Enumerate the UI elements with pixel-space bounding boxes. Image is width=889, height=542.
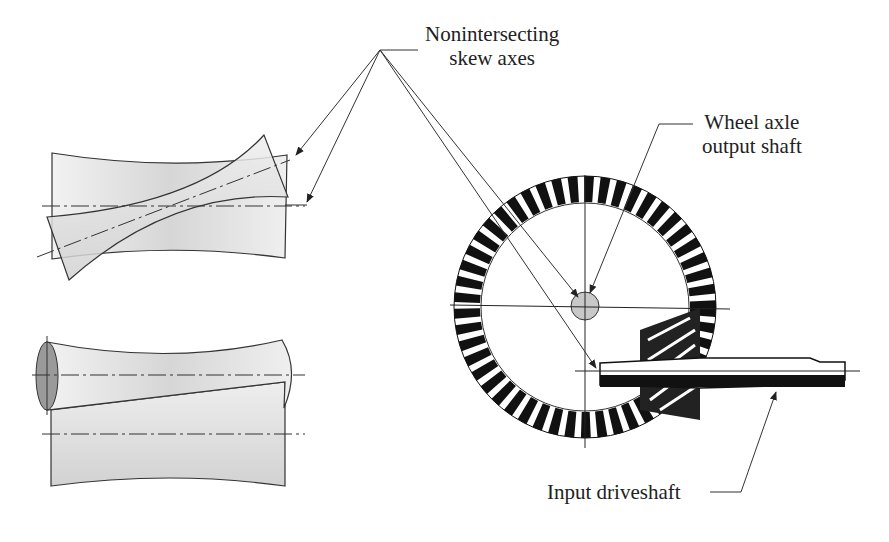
- label-skew-axes-line2: skew axes: [425, 46, 559, 70]
- label-skew-axes: Nonintersecting skew axes: [425, 22, 559, 70]
- pinion-shaft: [575, 358, 860, 388]
- hypoid-gear-diagram: [0, 0, 889, 542]
- label-input-driveshaft: Input driveshaft: [547, 480, 681, 504]
- label-wheel-axle-line2: output shaft: [702, 134, 802, 158]
- label-skew-axes-line1: Nonintersecting: [425, 22, 559, 46]
- label-wheel-axle: Wheel axle output shaft: [702, 110, 802, 158]
- leader-line-input-driveshaft: [710, 392, 776, 492]
- label-input-driveshaft-line1: Input driveshaft: [547, 480, 681, 504]
- side-view-hyperboloid-pair: [32, 336, 305, 486]
- label-wheel-axle-line1: Wheel axle: [702, 110, 802, 134]
- top-view-hyperboloid-pair: [37, 135, 305, 280]
